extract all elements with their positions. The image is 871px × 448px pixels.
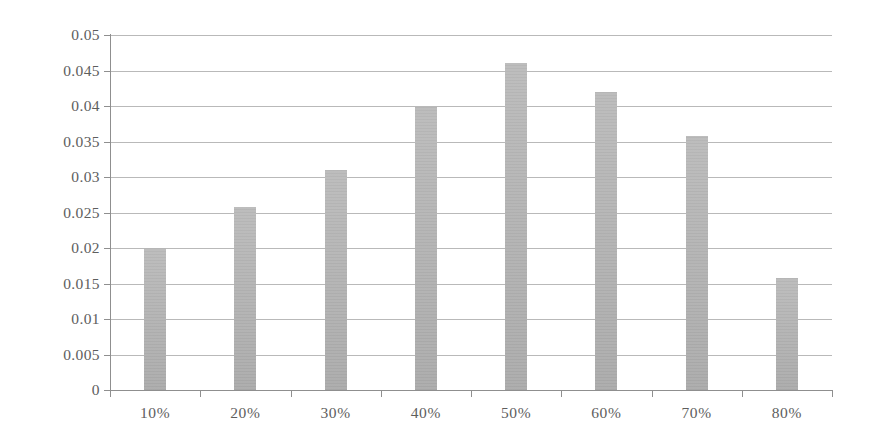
x-axis-tick bbox=[471, 390, 472, 397]
bar bbox=[595, 92, 617, 390]
bar bbox=[325, 170, 347, 390]
bar bbox=[144, 248, 166, 390]
y-axis-tick-labels: 00.0050.010.0150.020.0250.030.0350.040.0… bbox=[0, 0, 100, 448]
y-axis-tick-label: 0 bbox=[4, 381, 100, 399]
gridline bbox=[110, 248, 832, 249]
bar bbox=[686, 136, 708, 390]
bar bbox=[505, 63, 527, 390]
bar bbox=[234, 207, 256, 390]
x-axis-tick bbox=[110, 390, 111, 397]
x-axis-tick-label: 80% bbox=[742, 404, 832, 422]
x-axis-tick-label: 30% bbox=[291, 404, 381, 422]
y-axis-tick-label: 0.015 bbox=[4, 275, 100, 293]
y-axis-tick-label: 0.005 bbox=[4, 346, 100, 364]
gridline bbox=[110, 355, 832, 356]
x-axis-tick bbox=[742, 390, 743, 397]
gridline bbox=[110, 142, 832, 143]
y-axis-tick-label: 0.01 bbox=[4, 310, 100, 328]
gridline bbox=[110, 319, 832, 320]
gridline bbox=[110, 390, 832, 391]
gridline bbox=[110, 71, 832, 72]
gridline bbox=[110, 213, 832, 214]
x-axis-tick-label: 20% bbox=[200, 404, 290, 422]
x-axis-tick bbox=[291, 390, 292, 397]
x-axis-tick-label: 10% bbox=[110, 404, 200, 422]
gridline bbox=[110, 177, 832, 178]
plot-area bbox=[110, 35, 832, 390]
x-axis-tick bbox=[200, 390, 201, 397]
x-axis-tick-label: 60% bbox=[561, 404, 651, 422]
x-axis-tick bbox=[561, 390, 562, 397]
gridline bbox=[110, 106, 832, 107]
gridline bbox=[110, 35, 832, 36]
y-axis-tick-label: 0.045 bbox=[4, 62, 100, 80]
x-axis-tick-label: 50% bbox=[471, 404, 561, 422]
x-axis-tick bbox=[832, 390, 833, 397]
x-axis-tick bbox=[381, 390, 382, 397]
y-axis-tick-label: 0.04 bbox=[4, 97, 100, 115]
y-axis-tick-label: 0.05 bbox=[4, 26, 100, 44]
y-axis-line bbox=[110, 34, 111, 391]
y-axis-tick-label: 0.035 bbox=[4, 133, 100, 151]
y-axis-tick-label: 0.02 bbox=[4, 239, 100, 257]
x-axis-tick bbox=[652, 390, 653, 397]
bar bbox=[415, 107, 437, 390]
bar bbox=[776, 278, 798, 390]
y-axis-tick-label: 0.025 bbox=[4, 204, 100, 222]
x-axis-tick-label: 70% bbox=[652, 404, 742, 422]
gridline bbox=[110, 284, 832, 285]
y-axis-tick-label: 0.03 bbox=[4, 168, 100, 186]
bar-chart: 00.0050.010.0150.020.0250.030.0350.040.0… bbox=[0, 0, 871, 448]
x-axis-tick-label: 40% bbox=[381, 404, 471, 422]
